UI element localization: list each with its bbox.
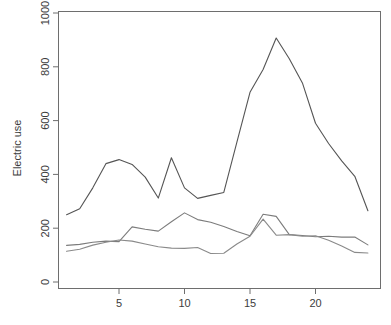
line-chart-plot: 0 200 400 600 800 1000 Electric use 5 10…: [0, 0, 391, 325]
x-tick-label-15: 15: [244, 297, 256, 309]
y-tick-label-600: 600: [39, 111, 51, 129]
chart-figure: 0 200 400 600 800 1000 Electric use 5 10…: [0, 0, 391, 325]
x-tick-label-10: 10: [178, 297, 190, 309]
x-tick-label-20: 20: [309, 297, 321, 309]
y-tick-label-800: 800: [39, 58, 51, 76]
x-tick-label-5: 5: [116, 297, 122, 309]
y-tick-label-200: 200: [39, 219, 51, 237]
y-axis-title: Electric use: [11, 120, 23, 177]
y-tick-label-0: 0: [39, 279, 51, 285]
y-tick-label-1000: 1000: [39, 1, 51, 25]
y-tick-label-400: 400: [39, 165, 51, 183]
